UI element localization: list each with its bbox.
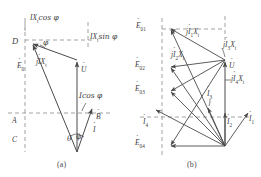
label-B: B [96, 113, 101, 121]
caption-a: (a) [57, 160, 66, 169]
label-I: I [93, 126, 96, 134]
label-jI4Xt: jI4Xt [231, 75, 244, 85]
label-U: U [229, 62, 234, 70]
label-theta: θ [67, 135, 72, 143]
label-D: D [12, 37, 18, 46]
label-I1: I1 [249, 115, 254, 125]
label-jI2Xt: jI2Xt [171, 51, 184, 61]
label-jI3Xt: jI3Xt [223, 41, 236, 51]
label-phi-bottom: φ [76, 133, 81, 141]
label-U: U [81, 66, 86, 74]
phasor-I4 [156, 110, 225, 146]
label-A: A [12, 117, 17, 125]
phasor-jI2Xt [171, 60, 225, 67]
label-I2: I2 [227, 118, 232, 128]
phasor-I [77, 109, 92, 152]
phasor-E02 [171, 68, 225, 146]
label-C: C [12, 136, 17, 144]
label-IXt-cos-phi: IXtcos φ [30, 14, 59, 24]
label-phi-top: φ [43, 39, 48, 47]
caption-b: (b) [187, 160, 197, 169]
label-E02: E02 [135, 61, 145, 71]
phasor-jI3Xt [171, 60, 225, 91]
leader-Icos [82, 103, 86, 111]
label-jIXt: jIXt [36, 58, 47, 68]
label-E01: E01 [136, 22, 146, 32]
label-I-cos-phi: Icos φ [79, 92, 102, 100]
phasor-E03 [171, 92, 225, 146]
label-E0: E0 [17, 62, 24, 72]
phasor-I3 [208, 108, 225, 146]
leader-I3 [209, 99, 210, 106]
label-I3: I3 [207, 90, 212, 100]
label-jI1Xt: jI1Xt [186, 28, 199, 38]
figure-root: IXtcos φ IXtsin φ D φ E0 jIXt U Icos φ A… [0, 0, 261, 177]
label-I4: I4 [143, 118, 148, 128]
label-E04: E04 [135, 139, 145, 149]
phasor-diagram-a: IXtcos φ IXtsin φ D φ E0 jIXt U Icos φ A… [0, 0, 131, 177]
label-IXt-sin-phi: IXtsin φ [90, 33, 117, 43]
label-E03: E03 [135, 85, 145, 95]
phasor-diagram-b: E01 E02 E03 E04 jI1Xt jI2Xt jI3Xt jI4Xt … [130, 0, 261, 177]
panel-a-canvas [0, 0, 131, 177]
